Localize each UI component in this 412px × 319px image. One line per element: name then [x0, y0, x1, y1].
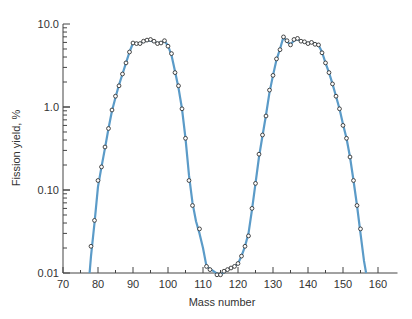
- y-tick-label: 0.01: [38, 267, 59, 279]
- data-point-marker: [198, 227, 202, 231]
- data-point-marker: [355, 204, 359, 208]
- data-point-marker: [285, 39, 289, 43]
- data-point-marker: [331, 82, 335, 86]
- data-markers: [89, 35, 362, 277]
- data-point-marker: [117, 84, 121, 88]
- data-point-marker: [348, 155, 352, 159]
- data-point-marker: [208, 268, 212, 272]
- x-tick-label: 90: [127, 278, 139, 290]
- data-point-marker: [121, 72, 125, 76]
- data-point-marker: [334, 94, 338, 98]
- data-point-marker: [205, 265, 209, 269]
- data-point-marker: [138, 42, 142, 46]
- data-point-marker: [128, 50, 132, 54]
- data-point-marker: [177, 84, 181, 88]
- data-point-marker: [345, 136, 349, 140]
- data-point-marker: [275, 57, 279, 61]
- data-point-marker: [93, 219, 97, 223]
- yield-curve: [90, 37, 367, 275]
- data-point-marker: [96, 179, 100, 183]
- data-point-marker: [114, 94, 118, 98]
- x-tick-label: 140: [299, 278, 317, 290]
- data-point-marker: [191, 204, 195, 208]
- data-point-marker: [243, 244, 247, 248]
- data-point-marker: [327, 71, 331, 75]
- data-point-marker: [110, 108, 114, 112]
- data-point-marker: [170, 52, 174, 56]
- data-point-marker: [247, 234, 251, 238]
- x-tick-label: 100: [159, 278, 177, 290]
- x-tick-label: 150: [334, 278, 352, 290]
- data-point-marker: [219, 273, 223, 277]
- data-point-marker: [282, 35, 286, 39]
- y-tick-label: 0.10: [38, 184, 59, 196]
- x-tick-label: 130: [264, 278, 282, 290]
- x-tick-label: 160: [369, 278, 387, 290]
- x-tick-label: 80: [92, 278, 104, 290]
- data-point-marker: [240, 254, 244, 258]
- data-point-marker: [173, 71, 177, 75]
- data-point-marker: [124, 61, 128, 65]
- fitted-curve: [90, 37, 367, 275]
- data-point-marker: [103, 145, 107, 149]
- data-point-marker: [352, 179, 356, 183]
- data-point-marker: [236, 262, 240, 266]
- data-point-marker: [296, 37, 300, 41]
- data-point-marker: [100, 165, 104, 169]
- data-point-marker: [89, 244, 93, 248]
- x-axis-title: Mass number: [189, 296, 256, 308]
- x-tick-label: 110: [194, 278, 212, 290]
- data-point-marker: [166, 44, 170, 48]
- data-point-marker: [180, 107, 184, 111]
- x-tick-label: 120: [229, 278, 247, 290]
- data-point-marker: [320, 51, 324, 55]
- data-point-marker: [159, 41, 163, 45]
- data-point-marker: [271, 74, 275, 78]
- data-point-marker: [233, 265, 237, 269]
- data-point-marker: [289, 43, 293, 47]
- y-tick-label: 1.0: [44, 101, 59, 113]
- y-axis-title: Fission yield, %: [10, 110, 22, 187]
- data-point-marker: [250, 207, 254, 211]
- fission-yield-chart: 7080901001101201301401501600.010.101.010…: [0, 0, 412, 319]
- data-point-marker: [264, 114, 268, 118]
- data-point-marker: [341, 124, 345, 128]
- data-point-marker: [184, 136, 188, 140]
- data-point-marker: [107, 127, 111, 131]
- data-point-marker: [268, 88, 272, 92]
- data-point-marker: [338, 107, 342, 111]
- data-point-marker: [261, 133, 265, 137]
- x-tick-label: 70: [57, 278, 69, 290]
- data-point-marker: [187, 179, 191, 183]
- data-point-marker: [152, 39, 156, 43]
- data-point-marker: [257, 152, 261, 156]
- data-point-marker: [163, 39, 167, 43]
- data-point-marker: [359, 227, 363, 231]
- data-point-marker: [254, 182, 258, 186]
- data-point-marker: [324, 61, 328, 65]
- data-point-marker: [278, 48, 282, 52]
- data-point-marker: [317, 43, 321, 47]
- y-tick-label: 10.0: [38, 18, 59, 30]
